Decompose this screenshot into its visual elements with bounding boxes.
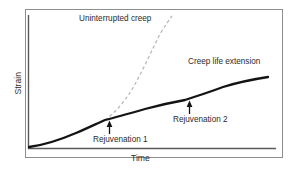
annotation-rejuvenation-2: Rejuvenation 2 bbox=[173, 116, 228, 124]
rejuvenation-2-arrow bbox=[187, 101, 193, 115]
figure-canvas: Uninterrupted creep Creep life extension… bbox=[0, 0, 292, 173]
annotation-creep-life-extension: Creep life extension bbox=[188, 58, 260, 66]
annotation-uninterrupted-creep: Uninterrupted creep bbox=[79, 15, 151, 23]
annotation-rejuvenation-1: Rejuvenation 1 bbox=[93, 136, 148, 144]
creep-life-extension-curve bbox=[29, 77, 268, 147]
creep-curve-plot bbox=[0, 0, 292, 173]
x-axis-label: Time bbox=[131, 154, 150, 163]
y-axis-label: Strain bbox=[14, 60, 23, 106]
rejuvenation-1-arrow bbox=[107, 121, 113, 135]
